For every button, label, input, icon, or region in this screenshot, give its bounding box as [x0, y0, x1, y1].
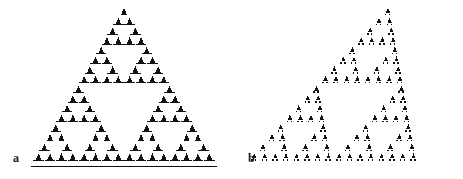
fractal-glyph	[79, 153, 89, 160]
fractal-glyph	[349, 47, 354, 54]
fractal-glyph	[147, 134, 157, 141]
fractal-glyph	[366, 144, 371, 151]
fractal-glyph	[124, 76, 134, 83]
fractal-glyph	[347, 153, 352, 160]
fractal-glyph	[402, 105, 407, 112]
fractal-glyph	[39, 144, 49, 151]
fractal-glyph	[130, 27, 140, 34]
fractal-glyph	[390, 95, 395, 102]
fractal-glyph	[96, 47, 106, 54]
fractal-glyph	[387, 18, 392, 25]
fractal-glyph	[287, 115, 292, 122]
fractal-glyph	[130, 66, 140, 73]
fractal-glyph	[369, 37, 374, 44]
fractal-glyph	[90, 153, 100, 160]
fractal-glyph	[389, 153, 394, 160]
fractal-glyph	[113, 37, 123, 44]
fractal-glyph	[353, 66, 358, 73]
fractal-glyph	[262, 153, 267, 160]
fractal-glyph	[376, 76, 381, 83]
fractal-glyph	[283, 153, 288, 160]
fractal-glyph	[56, 153, 66, 160]
fractal-glyph	[367, 27, 372, 34]
fractal-glyph	[381, 105, 386, 112]
fractal-glyph	[358, 37, 363, 44]
panel-b-label: b	[248, 152, 255, 164]
panel-a: a	[0, 0, 232, 179]
fractal-glyph	[102, 76, 112, 83]
fractal-glyph	[147, 153, 157, 160]
fractal-glyph	[407, 134, 412, 141]
fractal-glyph	[272, 153, 277, 160]
fractal-glyph	[294, 153, 299, 160]
fractal-glyph	[390, 37, 395, 44]
fractal-glyph	[198, 144, 208, 151]
fractal-glyph	[102, 134, 112, 141]
fractal-glyph	[363, 124, 368, 131]
fractal-glyph	[376, 18, 381, 25]
panel-a-canvas	[0, 0, 232, 179]
fractal-glyph	[388, 27, 393, 34]
fractal-glyph	[387, 144, 392, 151]
fractal-glyph	[113, 153, 123, 160]
fractal-glyph	[345, 144, 350, 151]
fractal-glyph	[187, 124, 197, 131]
fractal-glyph	[313, 86, 318, 93]
fractal-glyph	[385, 8, 390, 15]
fractal-glyph	[404, 115, 409, 122]
fractal-glyph	[153, 66, 163, 73]
fractal-glyph	[311, 134, 316, 141]
fractal-glyph	[124, 18, 134, 25]
fractal-glyph	[107, 27, 117, 34]
fractal-glyph	[302, 144, 307, 151]
fractal-glyph	[68, 95, 78, 102]
fractal-glyph	[170, 115, 180, 122]
fractal-glyph	[304, 153, 309, 160]
fractal-glyph	[45, 153, 55, 160]
fractal-glyph	[33, 153, 43, 160]
fractal-glyph	[62, 105, 72, 112]
fractal-glyph	[113, 18, 123, 25]
fractal-glyph	[333, 76, 338, 83]
fractal-glyph	[392, 47, 397, 54]
fractal-glyph	[56, 134, 66, 141]
fractal-glyph	[319, 115, 324, 122]
fractal-figure: a b	[0, 0, 463, 179]
fractal-glyph	[365, 76, 370, 83]
fractal-glyph	[107, 66, 117, 73]
fractal-glyph	[344, 76, 349, 83]
fractal-glyph	[351, 56, 356, 63]
fractal-glyph	[317, 105, 322, 112]
fractal-glyph	[281, 144, 286, 151]
fractal-glyph	[102, 37, 112, 44]
fractal-glyph	[396, 134, 401, 141]
fractal-glyph	[107, 144, 117, 151]
fractal-glyph	[374, 66, 379, 73]
fractal-glyph	[400, 153, 405, 160]
fractal-glyph	[79, 115, 89, 122]
fractal-glyph	[136, 153, 146, 160]
fractal-glyph	[90, 76, 100, 83]
fractal-glyph	[136, 134, 146, 141]
fractal-glyph	[269, 134, 274, 141]
fractal-glyph	[260, 144, 265, 151]
fractal-glyph	[322, 134, 327, 141]
fractal-glyph	[297, 115, 302, 122]
baseline-rule	[31, 166, 217, 167]
fractal-glyph	[320, 124, 325, 131]
panel-a-label: a	[13, 152, 19, 164]
fractal-glyph	[124, 153, 134, 160]
fractal-glyph	[68, 153, 78, 160]
fractal-glyph	[159, 95, 169, 102]
fractal-glyph	[51, 124, 61, 131]
fractal-glyph	[181, 115, 191, 122]
fractal-glyph	[379, 153, 384, 160]
fractal-glyph	[90, 134, 100, 141]
fractal-glyph	[170, 95, 180, 102]
fractal-glyph	[96, 124, 106, 131]
fractal-glyph	[130, 144, 140, 151]
fractal-glyph	[279, 134, 284, 141]
fractal-glyph	[159, 153, 169, 160]
panel-b: b	[232, 0, 463, 179]
fractal-glyph	[73, 86, 83, 93]
